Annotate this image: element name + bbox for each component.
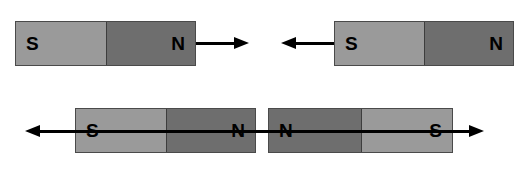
arrow-head-right-icon — [234, 37, 249, 49]
top-left-magnet-south-label: S — [26, 34, 39, 53]
arrow-shaft — [36, 130, 273, 133]
top-left-magnet-south-pole: S — [16, 22, 106, 65]
top-left-magnet: S N — [15, 21, 196, 66]
arrow-head-left-icon — [25, 125, 40, 137]
arrow-shaft — [292, 42, 334, 45]
top-right-magnet: S N — [334, 21, 514, 66]
top-right-magnet-south-label: S — [345, 34, 358, 53]
top-right-magnet-north-label: N — [489, 34, 503, 53]
arrow-shaft — [196, 42, 238, 45]
arrow-head-right-icon — [469, 125, 484, 137]
top-left-magnet-north-pole: N — [106, 22, 196, 65]
arrow-shaft — [252, 130, 473, 133]
top-right-magnet-south-pole: S — [335, 22, 424, 65]
top-left-magnet-north-label: N — [171, 34, 185, 53]
arrow-head-left-icon — [281, 37, 296, 49]
top-right-magnet-north-pole: N — [424, 22, 513, 65]
magnet-diagram: S N S N S N N — [0, 0, 524, 171]
